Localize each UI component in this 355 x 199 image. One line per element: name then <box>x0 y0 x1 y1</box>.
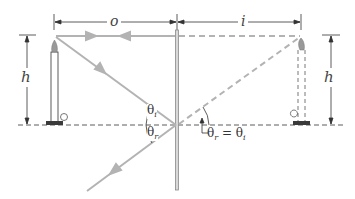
plane-mirror <box>176 30 179 190</box>
angle-equality-label: θr = θi <box>207 127 246 142</box>
image-distance-label: i <box>238 14 248 28</box>
dimension-line-top <box>54 14 301 30</box>
incident-ray <box>56 37 176 125</box>
object-candle <box>46 40 68 125</box>
virtual-ray <box>179 37 300 124</box>
object-height-label: h <box>21 68 31 87</box>
theta-i-subscript: i <box>154 110 157 119</box>
eq-rhs: = θ <box>218 126 243 140</box>
object-distance-label: o <box>107 14 121 28</box>
image-height-label: h <box>324 68 334 87</box>
reflection-diagram <box>0 0 355 199</box>
angle-incidence-label: θi <box>147 104 157 119</box>
theta-r-subscript: r <box>154 132 158 141</box>
horizontal-ray <box>56 32 175 40</box>
angle-reflection-label: θr <box>147 126 158 141</box>
eq-rhs-sub: i <box>243 133 246 142</box>
reflected-ray <box>87 125 176 191</box>
image-candle <box>290 38 310 125</box>
